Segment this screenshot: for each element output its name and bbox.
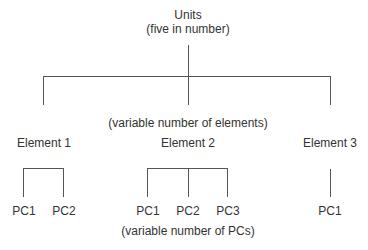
element-3-pc1-line bbox=[330, 169, 331, 197]
element-1-label: Element 1 bbox=[17, 136, 71, 150]
element-1-pc2-label: PC2 bbox=[52, 204, 75, 218]
element-3-label: Element 3 bbox=[303, 136, 357, 150]
element-2-label: Element 2 bbox=[161, 136, 215, 150]
element-2-pc3-label: PC3 bbox=[216, 204, 239, 218]
element-2-pc1-line bbox=[147, 168, 148, 197]
element-3-pc1-label: PC1 bbox=[318, 204, 341, 218]
element-1-pc1-label: PC1 bbox=[12, 204, 35, 218]
element-2-pc2-line bbox=[188, 168, 189, 197]
elements-bus-line bbox=[43, 76, 331, 77]
pcs-note: (variable number of PCs) bbox=[121, 224, 254, 238]
element-2-pc3-line bbox=[227, 168, 228, 197]
element-2-pc1-label: PC1 bbox=[136, 204, 159, 218]
root-subtitle: (five in number) bbox=[146, 22, 229, 36]
element-1-drop-line bbox=[43, 76, 44, 105]
root-stem-line bbox=[188, 45, 189, 105]
element-3-drop-line bbox=[330, 76, 331, 105]
root-title: Units bbox=[174, 8, 201, 22]
elements-note: (variable number of elements) bbox=[108, 116, 267, 130]
element-1-pc-bus-line bbox=[23, 168, 64, 169]
element-1-pc1-line bbox=[23, 168, 24, 197]
element-1-pc2-line bbox=[63, 168, 64, 197]
element-2-pc2-label: PC2 bbox=[176, 204, 199, 218]
